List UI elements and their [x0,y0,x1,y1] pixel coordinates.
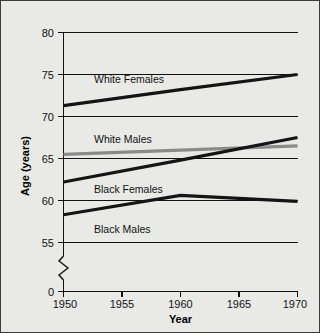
x-tick-label-1960: 1960 [168,298,192,310]
x-tick-label-1965: 1965 [227,298,251,310]
series-black-males [64,195,298,214]
y-tick-label-0: 0 [48,286,54,298]
x-axis-title: Year [169,313,193,325]
chart-figure: 80 75 70 65 60 55 0 Age (years) 1950 195… [0,0,320,333]
y-tick-labels: 80 75 70 65 60 55 0 [42,27,54,298]
line-chart: 80 75 70 65 60 55 0 Age (years) 1950 195… [1,1,320,333]
series-label-white-males: White Males [94,133,152,145]
series-label-white-females: White Females [94,73,164,85]
x-tick-label-1950: 1950 [53,298,77,310]
y-tick-label-70: 70 [42,111,54,123]
y-tick-label-55: 55 [42,237,54,249]
series-line-white-males [64,146,298,154]
y-axis [59,33,68,292]
x-axis [64,292,298,298]
y-tick-label-65: 65 [42,153,54,165]
y-axis-title: Age (years) [19,136,31,196]
series-white-males [64,146,298,154]
y-tick-label-75: 75 [42,69,54,81]
y-tick-label-80: 80 [42,27,54,39]
x-tick-label-1955: 1955 [110,298,134,310]
x-tick-labels: 1950 1955 1960 1965 1970 [53,298,307,310]
x-tick-label-1970: 1970 [283,298,307,310]
series-label-black-females: Black Females [94,183,163,195]
axis-break-zigzag [59,256,68,280]
series-line-black-males [64,195,298,214]
series-label-black-males: Black Males [94,223,151,235]
y-tick-marks [58,33,64,292]
y-tick-label-60: 60 [42,195,54,207]
